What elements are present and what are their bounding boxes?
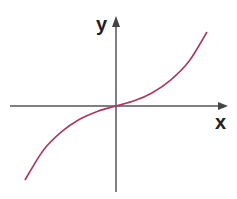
chart-plot xyxy=(0,0,237,199)
x-axis-arrow-icon xyxy=(218,102,228,110)
x-axis-label: x xyxy=(215,112,226,132)
y-axis-label: y xyxy=(96,14,107,34)
y-axis-arrow-icon xyxy=(112,16,120,27)
